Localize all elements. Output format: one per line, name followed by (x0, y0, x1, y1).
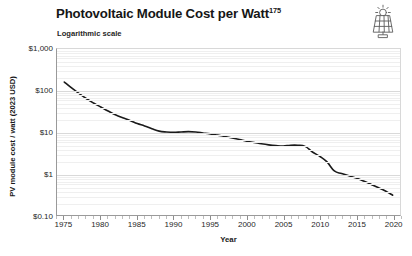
x-axis-tick-mark-minor (225, 216, 226, 219)
gridline-minor (57, 188, 400, 189)
gridline-minor (57, 66, 400, 67)
gridline-minor (57, 108, 400, 109)
gridline-minor (57, 56, 400, 57)
gridline-minor (57, 78, 400, 79)
x-axis-tick-mark-minor (386, 216, 387, 219)
x-axis-tick-mark-minor (93, 216, 94, 219)
x-axis-tick-mark-minor (298, 216, 299, 219)
x-axis-tick-mark (63, 216, 64, 220)
x-axis-tick-mark (284, 216, 285, 220)
gridline-minor (57, 71, 400, 72)
x-axis-tick-label: 1995 (201, 220, 219, 229)
x-axis-tick-mark-minor (401, 216, 402, 219)
gridline-minor (57, 179, 400, 180)
x-axis-tick-mark (210, 216, 211, 220)
x-axis-tick-mark-minor (203, 216, 204, 219)
gridline-minor (57, 142, 400, 143)
chart-title-superscript: 175 (269, 6, 281, 15)
chart-title-text: Photovoltaic Module Cost per Watt (56, 6, 269, 21)
x-axis-tick-mark-minor (254, 216, 255, 219)
x-axis-tick-mark (320, 216, 321, 220)
x-axis-tick-mark-minor (107, 216, 108, 219)
gridline-minor (57, 62, 400, 63)
x-axis-tick-mark-minor (372, 216, 373, 219)
x-axis-tick-mark-minor (328, 216, 329, 219)
gridline-minor (57, 155, 400, 156)
x-axis-tick-mark-minor (71, 216, 72, 219)
x-axis-tick-mark (394, 216, 395, 220)
x-axis-tick-mark-minor (85, 216, 86, 219)
gridline-minor (57, 162, 400, 163)
x-axis-tick-mark-minor (342, 216, 343, 219)
y-axis-tick-label: $1 (44, 170, 53, 179)
x-axis-tick-label: 2020 (385, 220, 403, 229)
gridline-minor (57, 113, 400, 114)
x-axis-tick-label: 2005 (275, 220, 293, 229)
panel-body-icon (373, 16, 392, 32)
x-axis-tick-mark-minor (379, 216, 380, 219)
x-axis-tick-mark-minor (232, 216, 233, 219)
gridline-minor (57, 146, 400, 147)
x-axis-tick-mark-minor (166, 216, 167, 219)
x-axis-tick-mark (173, 216, 174, 220)
x-axis-tick-mark-minor (122, 216, 123, 219)
gridline-minor (57, 120, 400, 121)
chart-figure: Photovoltaic Module Cost per Watt175 Log… (0, 0, 412, 256)
gridline-minor (57, 95, 400, 96)
gridline-major (57, 91, 400, 92)
x-axis-tick-mark-minor (276, 216, 277, 219)
x-axis-tick-label: 1980 (91, 220, 109, 229)
x-axis-tick-mark (247, 216, 248, 220)
x-axis-tick-mark (137, 216, 138, 220)
gridline-minor (57, 137, 400, 138)
x-axis-tick-mark-minor (56, 216, 57, 219)
x-axis-tick-mark-minor (78, 216, 79, 219)
x-axis-tick-mark-minor (306, 216, 307, 219)
x-axis-tick-label: 1975 (54, 220, 72, 229)
plot-area (56, 48, 401, 216)
x-axis-tick-mark-minor (217, 216, 218, 219)
x-axis-tick-mark-minor (181, 216, 182, 219)
x-axis-tick-labels: 1975198019851990199520002005201020152020 (0, 220, 412, 234)
series-line (57, 49, 400, 215)
x-axis-tick-mark-minor (262, 216, 263, 219)
solar-panel-icon (362, 3, 404, 43)
gridline-minor (57, 197, 400, 198)
gridline-minor (57, 192, 400, 193)
gridline-major (57, 133, 400, 134)
x-axis-tick-mark (100, 216, 101, 220)
x-axis-tick-mark-minor (240, 216, 241, 219)
x-axis-tick-mark-minor (269, 216, 270, 219)
gridline-minor (57, 100, 400, 101)
gridline-minor (57, 51, 400, 52)
x-axis-tick-mark-minor (313, 216, 314, 219)
x-axis-tick-label: 2000 (238, 220, 256, 229)
gridline-minor (57, 150, 400, 151)
x-axis-tick-mark-minor (115, 216, 116, 219)
gridline-major (57, 175, 400, 176)
x-axis-tick-mark-minor (364, 216, 365, 219)
x-axis-tick-mark-minor (144, 216, 145, 219)
page-title: Photovoltaic Module Cost per Watt175 (56, 6, 281, 21)
gridline-minor (57, 93, 400, 94)
gridline-minor (57, 140, 400, 141)
gridline-minor (57, 135, 400, 136)
x-axis-tick-mark-minor (350, 216, 351, 219)
x-axis-title: Year (56, 235, 401, 244)
x-axis-tick-mark-minor (151, 216, 152, 219)
x-axis-tick-mark (357, 216, 358, 220)
y-axis-tick-label: $100 (35, 86, 53, 95)
chart-subtitle: Logarithmic scale (57, 29, 122, 38)
x-axis-tick-label: 1990 (165, 220, 183, 229)
gridline-minor (57, 53, 400, 54)
gridline-minor (57, 177, 400, 178)
x-axis-tick-mark-minor (335, 216, 336, 219)
x-axis-tick-mark-minor (188, 216, 189, 219)
gridline-minor (57, 182, 400, 183)
x-axis-tick-label: 2010 (311, 220, 329, 229)
x-axis-tick-mark-minor (291, 216, 292, 219)
x-axis-tick-mark-minor (159, 216, 160, 219)
panel-stand-icon (379, 32, 388, 38)
gridline-minor (57, 58, 400, 59)
x-axis-tick-mark-minor (129, 216, 130, 219)
